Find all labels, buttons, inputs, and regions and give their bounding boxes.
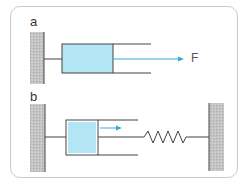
spring-icon <box>144 131 209 143</box>
panel-a <box>30 32 184 84</box>
wall-left-a <box>30 32 44 84</box>
arrow-head-icon <box>116 126 122 131</box>
piston-a <box>62 44 113 73</box>
panel-b <box>30 103 224 172</box>
wall-left-b <box>30 104 45 172</box>
diagram-svg <box>0 0 248 188</box>
wall-right-b <box>209 103 224 171</box>
arrow-head-icon <box>178 57 184 62</box>
